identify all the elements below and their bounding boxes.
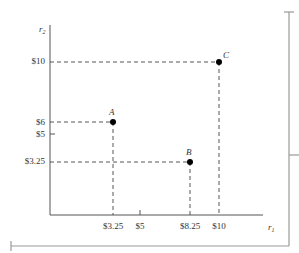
point-c-label: C xyxy=(223,50,230,60)
y-tick-label: $10 xyxy=(32,56,46,66)
guide-lines xyxy=(50,62,219,215)
point-a-label: A xyxy=(108,107,115,117)
x-tick-label: $8.25 xyxy=(180,221,201,231)
axes xyxy=(50,25,263,215)
point-b xyxy=(187,159,193,165)
chart: A B C $10 $6 $5 $3.25 $3.25 $5 $8.25 $10… xyxy=(0,0,299,253)
x-tick-label: $10 xyxy=(212,221,226,231)
y-tick-label: $3.25 xyxy=(25,156,46,166)
y-tick-label: $6 xyxy=(36,117,46,127)
y-tick-label: $5 xyxy=(36,129,46,139)
x-axis-label: r1 xyxy=(268,222,275,233)
point-b-label: B xyxy=(186,147,192,157)
y-axis-label: r2 xyxy=(39,24,46,35)
point-c xyxy=(216,59,222,65)
x-tick-label: $3.25 xyxy=(103,221,124,231)
x-tick-label: $5 xyxy=(136,221,146,231)
point-a xyxy=(110,119,116,125)
